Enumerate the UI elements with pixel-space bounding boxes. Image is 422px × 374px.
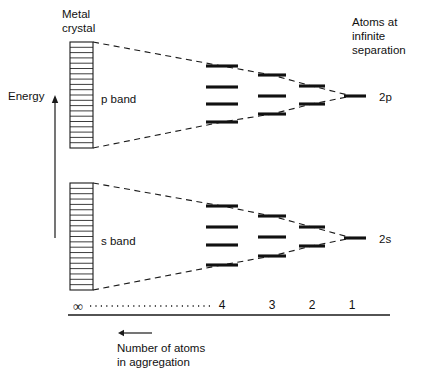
axis-tick-2: 2 [309,298,316,312]
atomic-level-label-2p: 2p [379,91,392,103]
axis-tick-1: 1 [349,298,356,312]
direction-arrow-head [118,330,124,336]
band-label-1: s band [101,235,136,247]
axis-caption-line-0: Number of atoms [117,342,205,354]
axis-tick-3: 3 [269,298,276,312]
axis-caption: Number of atomsin aggregation [117,330,205,368]
atoms-infinite-text-line-0: Atoms at [352,16,398,28]
diagram-canvas: Energy Metalcrystal Atoms atinfinitesepa… [0,0,422,374]
axis-caption-line-1: in aggregation [117,356,190,368]
energy-axis-arrow [52,95,58,238]
band-s-band: s band2s [93,183,391,290]
bands-group: p band2ps band2s [93,42,392,290]
metal-crystal-blocks [70,42,93,290]
band-envelope-top-1 [93,183,352,238]
axis-tick-4: 4 [219,298,226,312]
band-p-band: p band2p [93,42,392,148]
band-structure-diagram: Energy Metalcrystal Atoms atinfinitesepa… [0,0,422,374]
atoms-infinite-text-line-1: infinite [352,30,385,42]
atom-count-axis: ∞4321 [68,298,390,315]
axis-tick-infinity: ∞ [73,299,83,314]
atoms-at-infinite-separation-label: Atoms atinfiniteseparation [352,16,406,56]
metal-crystal-text-line-1: crystal [62,22,95,34]
energy-axis-label: Energy [8,90,45,102]
atomic-level-label-2s: 2s [379,233,391,245]
atoms-infinite-text-line-2: separation [352,44,406,56]
metal-crystal-text-line-0: Metal [62,8,90,20]
metal-crystal-label: Metalcrystal [62,8,95,34]
energy-arrow-head [52,95,58,103]
band-label-0: p band [101,93,136,105]
